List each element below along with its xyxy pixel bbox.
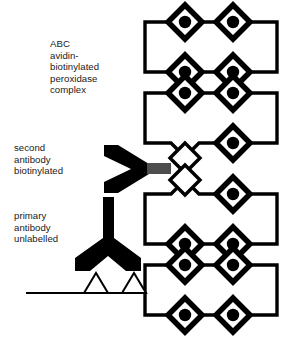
abc-complex-3	[145, 165, 277, 261]
second-antibody-y	[104, 145, 149, 193]
biotin-linker-bar	[147, 163, 171, 174]
abc-body-1	[145, 8, 277, 86]
label-primary-antibody: primary antibody unlabelled	[14, 210, 58, 245]
abc-complex-1	[145, 5, 277, 89]
second-antibody-shape	[104, 145, 171, 193]
primary-antibody-shape	[75, 197, 141, 271]
primary-antibody-y	[75, 197, 141, 271]
abc-body-3	[145, 180, 277, 258]
antigen-triangle-left	[84, 273, 108, 293]
label-second-antibody: second antibody biotinylated	[14, 142, 63, 177]
abc-complex-4	[145, 248, 277, 332]
abc-body-4	[145, 251, 277, 329]
abc-complex-2	[145, 76, 277, 173]
abc-body-2	[145, 79, 277, 157]
label-abc-complex: ABC avidin- biotinylated peroxidase comp…	[50, 38, 99, 96]
antigen-triangle-right	[122, 273, 146, 293]
antigen-layer	[26, 273, 147, 293]
figure-canvas: ABC avidin- biotinylated peroxidase comp…	[0, 0, 292, 352]
